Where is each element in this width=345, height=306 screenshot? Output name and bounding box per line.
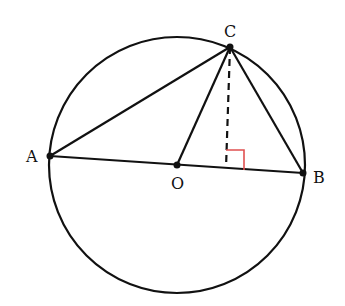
point-c — [227, 44, 234, 51]
label-c: C — [224, 24, 236, 40]
segment-ac — [50, 47, 230, 156]
label-a: A — [26, 149, 38, 165]
label-b: B — [313, 170, 325, 186]
label-o: O — [171, 176, 184, 192]
geometry-diagram — [0, 0, 345, 306]
segment-oc — [177, 47, 230, 165]
point-o — [174, 162, 181, 169]
point-a — [47, 153, 54, 160]
point-b — [300, 170, 307, 177]
